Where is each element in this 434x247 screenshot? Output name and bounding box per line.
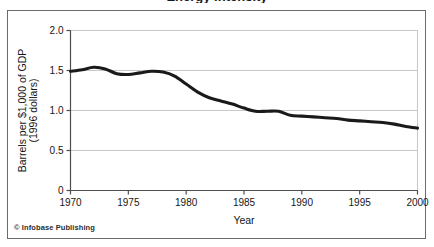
x-tick-label-1995: 1995 [349, 197, 372, 208]
x-tick-label-1990: 1990 [291, 197, 314, 208]
x-tick-label-2000: 2000 [406, 197, 429, 208]
y-tick-label-0: 0 [58, 185, 64, 196]
y-tick-label-1.5: 1.5 [50, 65, 64, 76]
x-tick-label-1975: 1975 [117, 197, 140, 208]
x-axis-title: Year [233, 214, 255, 226]
energy-intensity-figure: Energy Intensity 00.51.01.52.01970197519… [0, 0, 434, 247]
copyright-credit: © Infobase Publishing [14, 223, 95, 232]
line-chart-plot: 00.51.01.52.0197019751980198519901995200… [0, 0, 434, 247]
y-axis-title-line2: (1996 dollars) [27, 78, 39, 142]
x-tick-label-1980: 1980 [175, 197, 198, 208]
x-tick-label-1985: 1985 [233, 197, 256, 208]
y-tick-label-2: 2.0 [50, 25, 64, 36]
y-tick-label-1: 1.0 [50, 105, 64, 116]
y-tick-label-0.5: 0.5 [50, 145, 64, 156]
x-tick-label-1970: 1970 [59, 197, 82, 208]
